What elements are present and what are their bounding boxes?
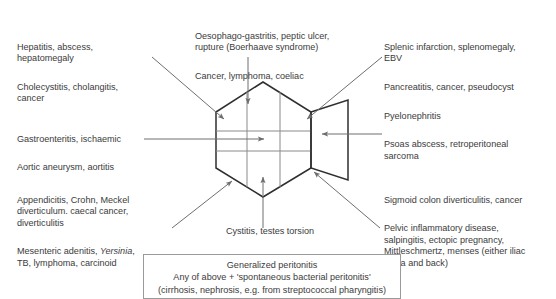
label-paragraph: Pancreatitis, cancer, pseudocyst <box>384 82 554 94</box>
label-paragraph: Appendicitis, Crohn, Meckel diverticulum… <box>17 195 185 230</box>
back-trapezoid <box>311 100 348 180</box>
label-paragraph: Cancer, lymphoma, coeliac <box>195 71 375 83</box>
label-paragraph: Psoas abscess, retroperitoneal sarcoma <box>384 139 552 162</box>
label-paragraph: Splenic infarction, splenomegaly, EBV <box>384 42 554 65</box>
central-abdomen-causes: Gastroenteritis, ischaemic Aortic aneury… <box>17 122 182 185</box>
label-paragraph: Hepatitis, abscess, hepatomegaly <box>17 42 179 65</box>
peritonitis-line: Generalized peritonitis <box>227 259 317 271</box>
label-paragraph: Cystitis, testes torsion <box>226 226 356 238</box>
label-paragraph: Pyelonephritis <box>384 111 552 123</box>
label-italic-term: Yersinia <box>100 246 132 256</box>
suprapubic-causes: Cystitis, testes torsion <box>226 214 356 249</box>
left-upper-quadrant-causes: Splenic infarction, splenomegaly, EBV Pa… <box>384 30 554 105</box>
generalized-peritonitis-box: Generalized peritonitis Any of above + '… <box>143 254 401 299</box>
loin-back-causes: Pyelonephritis Psoas abscess, retroperit… <box>384 99 552 174</box>
left-iliac-fossa-causes: Sigmoid colon diverticulitis, cancer Pel… <box>384 183 556 281</box>
label-paragraph: Aortic aneurysm, aortitis <box>17 162 182 174</box>
label-text-lead: Mesenteric adenitis, <box>17 246 100 256</box>
diagram-page: Hepatitis, abscess, hepatomegaly Cholecy… <box>0 0 556 299</box>
label-paragraph: Cholecystitis, cholangitis, cancer <box>17 82 179 105</box>
peritonitis-line: (cirrhosis, nephrosis, e.g. from strepto… <box>158 284 386 296</box>
label-paragraph: Sigmoid colon diverticulitis, cancer <box>384 195 556 207</box>
label-paragraph: Gastroenteritis, ischaemic <box>17 134 182 146</box>
peritonitis-line: Any of above + 'spontaneous bacterial pe… <box>173 271 370 283</box>
epigastric-causes: Oesophago-gastritis, peptic ulcer, ruptu… <box>195 19 375 94</box>
label-paragraph: Pelvic inflammatory disease, salpingitis… <box>384 223 556 269</box>
right-upper-quadrant-causes: Hepatitis, abscess, hepatomegaly Cholecy… <box>17 30 179 117</box>
label-paragraph: Oesophago-gastritis, peptic ulcer, ruptu… <box>195 31 375 54</box>
